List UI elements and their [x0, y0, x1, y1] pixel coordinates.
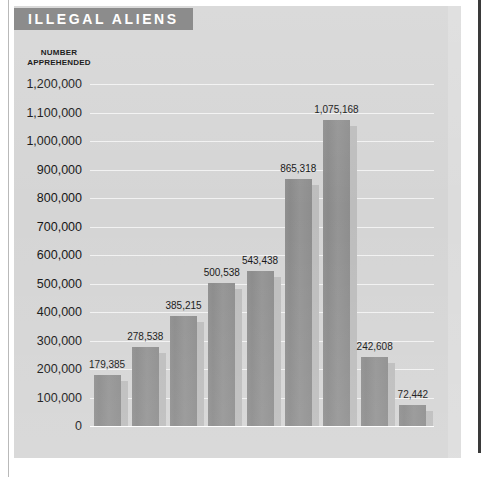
bar-shadow [159, 353, 166, 426]
y-axis-tick-label: 1,000,000 [26, 135, 82, 148]
y-axis-tick-label: 200,000 [37, 363, 82, 376]
bar[interactable] [170, 316, 197, 426]
chart-figure: NUMBER APPREHENDED 1,200,0001,100,0001,0… [14, 6, 461, 458]
gridline [90, 426, 434, 427]
y-axis-tick-label: 100,000 [37, 391, 82, 404]
bar-item[interactable]: 543,438 [247, 84, 274, 426]
bar-item[interactable]: 500,538 [208, 84, 235, 426]
bar-value-label: 179,385 [89, 360, 125, 370]
bar-shadow [426, 411, 433, 426]
bar[interactable] [247, 271, 274, 426]
bar[interactable] [285, 179, 312, 426]
y-axis-caption: NUMBER APPREHENDED [20, 48, 98, 68]
page-title: ILLEGAL ALIENS [28, 12, 179, 26]
y-axis-tick-label: 0 [75, 420, 82, 433]
y-axis-caption-line-1: NUMBER [20, 48, 98, 58]
bar-shadow [388, 363, 395, 426]
bar-value-label: 242,608 [357, 342, 393, 352]
bar-item[interactable]: 865,318 [285, 84, 312, 426]
bar-shadow [274, 277, 281, 426]
chart-title-banner: ILLEGAL ALIENS [14, 8, 193, 30]
figure-right-strip [448, 6, 461, 458]
bar[interactable] [208, 283, 235, 426]
bar-value-label: 278,538 [127, 332, 163, 342]
bar[interactable] [132, 347, 159, 426]
left-page-rule [8, 0, 9, 477]
bar-value-label: 500,538 [204, 268, 240, 278]
bar-shadow [121, 381, 128, 426]
y-axis-caption-line-2: APPREHENDED [20, 58, 98, 68]
bar-value-label: 72,442 [398, 390, 429, 400]
bar-value-label: 865,318 [280, 164, 316, 174]
y-axis-tick-label: 400,000 [37, 306, 82, 319]
bar-item[interactable]: 1,075,168 [323, 84, 350, 426]
y-axis-tick-label: 800,000 [37, 192, 82, 205]
bar-item[interactable]: 179,385 [94, 84, 121, 426]
bar-item[interactable]: 72,442 [399, 84, 426, 426]
page-canvas: NUMBER APPREHENDED 1,200,0001,100,0001,0… [0, 0, 487, 477]
bar-value-label: 385,215 [165, 301, 201, 311]
y-axis-tick-label: 900,000 [37, 163, 82, 176]
y-axis-tick-label: 1,200,000 [26, 78, 82, 91]
y-axis-tick-label: 500,000 [37, 277, 82, 290]
bar-shadow [197, 322, 204, 426]
bar[interactable] [361, 357, 388, 426]
bar[interactable] [399, 405, 426, 426]
y-axis-tick-label: 600,000 [37, 249, 82, 262]
bar-item[interactable]: 385,215 [170, 84, 197, 426]
bar-shadow [235, 289, 242, 426]
y-axis-tick-label: 1,100,000 [26, 106, 82, 119]
bar-item[interactable]: 242,608 [361, 84, 388, 426]
bar[interactable] [94, 375, 121, 426]
right-page-margin [481, 0, 487, 453]
plot-area: 1,200,0001,100,0001,000,000900,000800,00… [90, 84, 434, 426]
bar-value-label: 543,438 [242, 256, 278, 266]
y-axis-tick-label: 700,000 [37, 220, 82, 233]
bar-item[interactable]: 278,538 [132, 84, 159, 426]
y-axis-tick-label: 300,000 [37, 334, 82, 347]
bar[interactable] [323, 120, 350, 426]
bar-value-label: 1,075,168 [314, 105, 359, 115]
bar-shadow [350, 126, 357, 426]
bar-shadow [312, 185, 319, 426]
